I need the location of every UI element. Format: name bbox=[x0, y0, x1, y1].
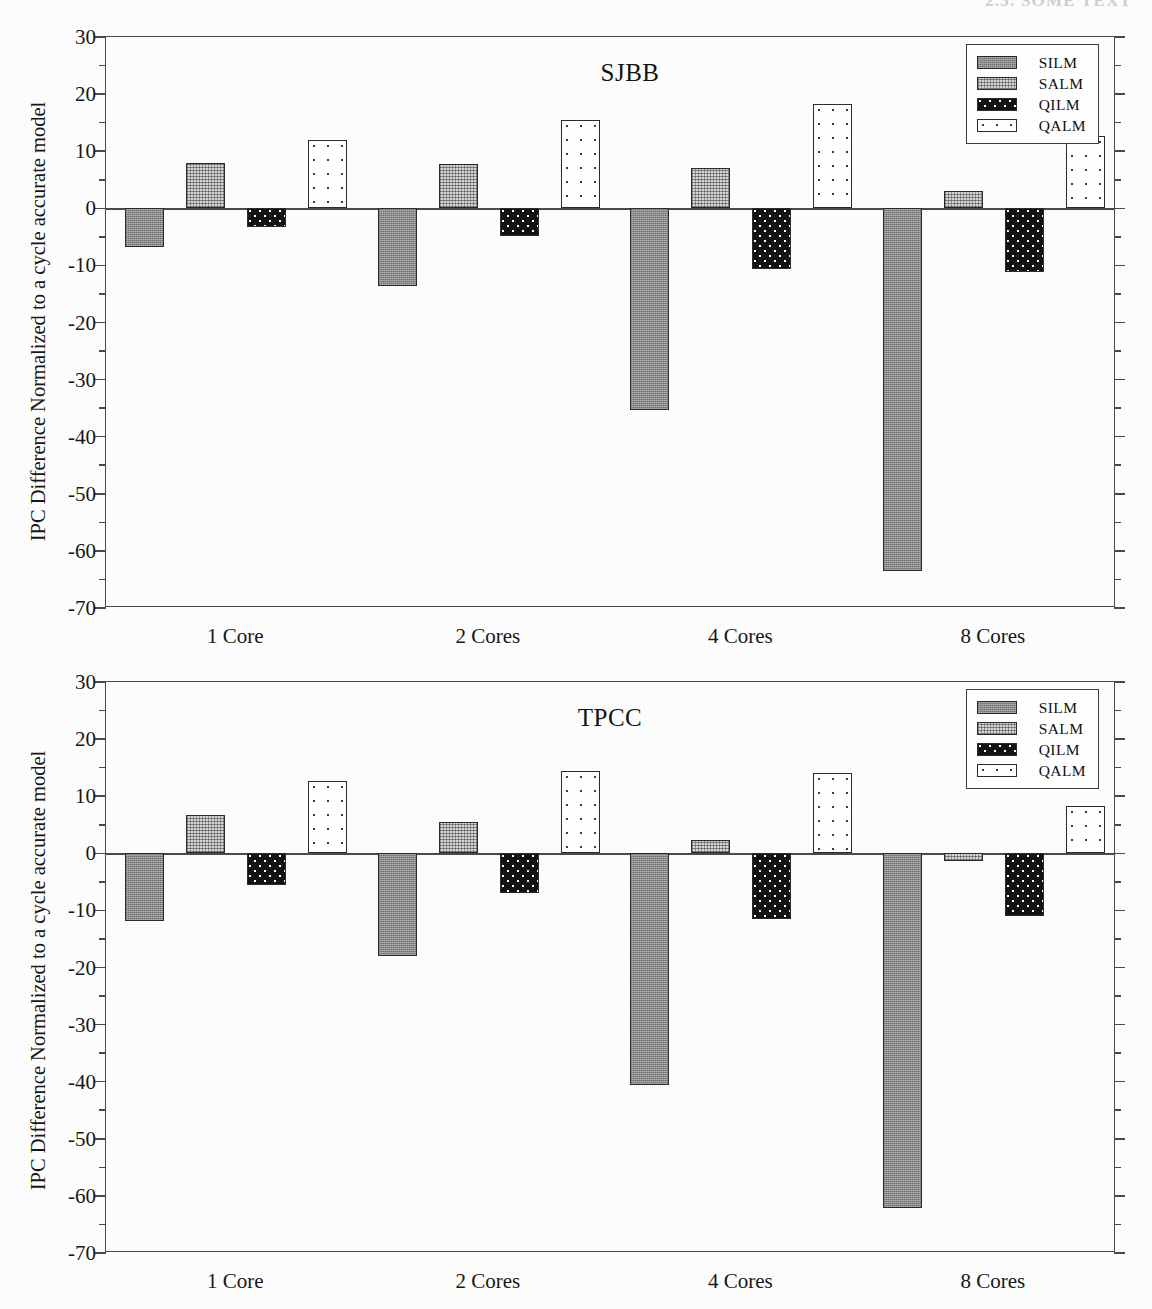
bar-silm-2-cores bbox=[378, 208, 417, 286]
legend-swatch-silm-icon bbox=[977, 701, 1017, 714]
y-axis-tick bbox=[95, 1024, 106, 1026]
page-header: 2.3. SOME TEXT bbox=[0, 0, 1152, 16]
x-axis-label-2-cores: 2 Cores bbox=[455, 1269, 520, 1294]
legend-item-salm[interactable]: SALM bbox=[977, 718, 1086, 739]
y-axis-tick-label: 0 bbox=[26, 196, 96, 221]
y-axis-tick bbox=[95, 150, 106, 152]
y-axis-tick bbox=[95, 379, 106, 381]
legend-item-silm[interactable]: SILM bbox=[977, 52, 1086, 73]
legend-label: SALM bbox=[1039, 720, 1084, 738]
bar-qilm-4-cores bbox=[752, 208, 791, 269]
y-axis-tick bbox=[95, 93, 106, 95]
y-axis-tick-label: 30 bbox=[26, 670, 96, 695]
x-axis-label-1-core: 1 Core bbox=[207, 1269, 264, 1294]
y-axis-minor-tick-right bbox=[1114, 1167, 1121, 1169]
y-axis-tick-label: -10 bbox=[26, 253, 96, 278]
x-axis-label-4-cores: 4 Cores bbox=[708, 624, 773, 649]
y-axis-minor-tick bbox=[99, 1167, 106, 1169]
y-axis-minor-tick bbox=[99, 522, 106, 524]
bar-silm-8-cores bbox=[883, 208, 922, 571]
y-axis-tick-right bbox=[1114, 36, 1125, 38]
bar-qalm-8-cores bbox=[1066, 136, 1105, 209]
legend-item-qilm[interactable]: QILM bbox=[977, 94, 1086, 115]
bar-qilm-1-core bbox=[247, 853, 286, 884]
bar-qalm-1-core bbox=[308, 781, 347, 854]
y-axis-minor-tick-right bbox=[1114, 293, 1121, 295]
y-axis-tick bbox=[95, 265, 106, 267]
y-axis-tick-right bbox=[1114, 853, 1125, 855]
y-axis-tick-label: -10 bbox=[26, 898, 96, 923]
bar-qilm-2-cores bbox=[500, 208, 539, 235]
y-axis-tick bbox=[95, 322, 106, 324]
chart-sjbb: IPC Difference Normalized to a cycle acc… bbox=[0, 18, 1152, 663]
y-axis-minor-tick bbox=[99, 881, 106, 883]
bar-silm-8-cores bbox=[883, 853, 922, 1208]
y-axis-tick-right bbox=[1114, 1195, 1125, 1197]
bar-salm-1-core bbox=[186, 163, 225, 209]
y-axis-tick bbox=[95, 607, 106, 609]
y-axis-tick bbox=[95, 853, 106, 855]
bar-salm-1-core bbox=[186, 815, 225, 853]
y-axis-minor-tick bbox=[99, 293, 106, 295]
y-axis-tick-label: -70 bbox=[26, 596, 96, 621]
y-axis-tick-label: -30 bbox=[26, 367, 96, 392]
y-axis-tick-label: 30 bbox=[26, 25, 96, 50]
legend-item-qilm[interactable]: QILM bbox=[977, 739, 1086, 760]
y-axis-tick-right bbox=[1114, 379, 1125, 381]
plot-area-chart1: SJBB 3020100-10-20-30-40-50-60-70SILMSAL… bbox=[105, 36, 1115, 607]
legend-item-silm[interactable]: SILM bbox=[977, 697, 1086, 718]
legend-swatch-salm-icon bbox=[977, 722, 1017, 735]
y-axis-tick-right bbox=[1114, 795, 1125, 797]
y-axis-tick-right bbox=[1114, 436, 1125, 438]
y-axis-tick-label: -20 bbox=[26, 310, 96, 335]
y-axis-tick-right bbox=[1114, 967, 1125, 969]
bar-qilm-1-core bbox=[247, 208, 286, 226]
y-axis-minor-tick bbox=[99, 1052, 106, 1054]
y-axis-tick-right bbox=[1114, 550, 1125, 552]
bar-salm-4-cores bbox=[691, 840, 730, 853]
y-axis-tick bbox=[95, 493, 106, 495]
y-axis-tick-label: 20 bbox=[26, 727, 96, 752]
y-axis-tick-right bbox=[1114, 150, 1125, 152]
y-axis-tick-right bbox=[1114, 93, 1125, 95]
legend-swatch-qalm-icon bbox=[977, 764, 1017, 777]
legend-item-salm[interactable]: SALM bbox=[977, 73, 1086, 94]
legend-item-qalm[interactable]: QALM bbox=[977, 115, 1086, 136]
y-axis-tick-label: -20 bbox=[26, 955, 96, 980]
bar-salm-2-cores bbox=[439, 164, 478, 209]
y-axis-minor-tick-right bbox=[1114, 464, 1121, 466]
legend-tpcc: SILMSALMQILMQALM bbox=[966, 689, 1099, 789]
y-axis-minor-tick-right bbox=[1114, 65, 1121, 67]
y-axis-tick-label: 10 bbox=[26, 784, 96, 809]
y-axis-tick bbox=[95, 1138, 106, 1140]
y-axis-tick-right bbox=[1114, 1024, 1125, 1026]
bar-salm-4-cores bbox=[691, 168, 730, 209]
bar-qalm-2-cores bbox=[561, 771, 600, 853]
y-axis-tick bbox=[95, 910, 106, 912]
legend-label: SILM bbox=[1039, 699, 1078, 717]
legend-swatch-qilm-icon bbox=[977, 743, 1017, 756]
y-axis-tick-right bbox=[1114, 1081, 1125, 1083]
y-axis-tick-right bbox=[1114, 322, 1125, 324]
y-axis-minor-tick bbox=[99, 122, 106, 124]
bar-qalm-4-cores bbox=[813, 104, 852, 208]
y-axis-minor-tick-right bbox=[1114, 881, 1121, 883]
y-axis-tick-right bbox=[1114, 738, 1125, 740]
legend-item-qalm[interactable]: QALM bbox=[977, 760, 1086, 781]
y-axis-minor-tick bbox=[99, 65, 106, 67]
y-axis-tick-label: 0 bbox=[26, 841, 96, 866]
bar-silm-4-cores bbox=[630, 208, 669, 410]
y-axis-minor-tick bbox=[99, 407, 106, 409]
y-axis-minor-tick-right bbox=[1114, 179, 1121, 181]
y-axis-tick-right bbox=[1114, 910, 1125, 912]
bar-qalm-8-cores bbox=[1066, 806, 1105, 853]
bar-silm-4-cores bbox=[630, 853, 669, 1085]
x-axis-label-8-cores: 8 Cores bbox=[960, 624, 1025, 649]
y-axis-minor-tick-right bbox=[1114, 995, 1121, 997]
y-axis-tick bbox=[95, 1081, 106, 1083]
x-axis-label-2-cores: 2 Cores bbox=[455, 624, 520, 649]
y-axis-minor-tick bbox=[99, 710, 106, 712]
y-axis-minor-tick-right bbox=[1114, 579, 1121, 581]
legend-label: QALM bbox=[1039, 762, 1086, 780]
y-axis-minor-tick-right bbox=[1114, 1224, 1121, 1226]
